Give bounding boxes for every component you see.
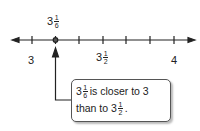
numerator: 1 xyxy=(103,50,108,58)
numerator: 1 xyxy=(83,84,88,92)
callout-whole: 3 xyxy=(76,83,82,100)
callout-text: is closer to 3 xyxy=(90,83,149,100)
label-3: 3 xyxy=(28,55,34,66)
number-line xyxy=(12,36,195,44)
callout-text: than to 3 xyxy=(76,100,117,117)
point-label: 3 1 6 xyxy=(47,14,59,29)
label-4: 4 xyxy=(171,55,177,66)
denominator: 6 xyxy=(83,92,87,99)
callout-fraction: 1 2 xyxy=(118,101,123,116)
label-fraction: 1 2 xyxy=(103,50,108,65)
point-fraction: 1 6 xyxy=(54,14,59,29)
pointer-arrow xyxy=(53,48,72,100)
callout-line-2: than to 3 1 2 . xyxy=(76,100,170,117)
up-arrow-icon xyxy=(53,48,59,57)
right-arrow-icon xyxy=(188,38,195,43)
denominator: 2 xyxy=(104,58,108,65)
label-whole: 3 xyxy=(96,52,102,63)
period: . xyxy=(125,100,128,117)
numerator: 1 xyxy=(118,101,123,109)
left-arrow-icon xyxy=(12,38,19,43)
denominator: 2 xyxy=(118,109,122,116)
denominator: 6 xyxy=(55,22,59,29)
callout-line-1: 3 1 6 is closer to 3 xyxy=(76,83,170,100)
point-marker xyxy=(53,38,58,43)
point-whole: 3 xyxy=(47,16,53,27)
callout-fraction: 1 6 xyxy=(83,84,88,99)
numerator: 1 xyxy=(54,14,59,22)
label-3-half: 3 1 2 xyxy=(96,50,108,65)
callout-box: 3 1 6 is closer to 3 than to 3 1 2 . xyxy=(71,79,171,122)
